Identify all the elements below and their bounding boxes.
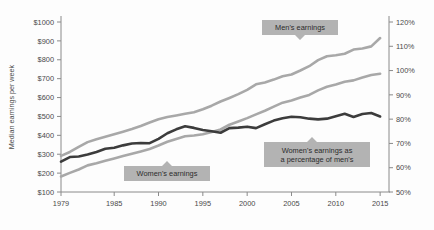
x-axis-tick-label: 1979 [53,199,69,208]
y-axis-title: Median earnings per week [7,64,16,149]
x-axis-tick-label: 1985 [106,199,122,208]
x-axis-tick-label: 2015 [372,199,388,208]
right-axis-tick-label: 120% [396,18,415,27]
right-axis-tick-label: 90% [396,91,411,100]
right-axis-tick-label: 100% [396,66,415,75]
x-axis-tick-label: 2010 [328,199,344,208]
x-axis-tick-label: 1995 [195,199,211,208]
left-axis-tick-label: $600 [38,93,54,102]
right-axis-tick-label: 50% [396,188,411,197]
left-axis-tick-label: $100 [38,188,54,197]
right-axis-tick-label: 70% [396,139,411,148]
annotation-womens-percentage: Women's earnings asa percentage of men's [264,137,370,167]
callout-label: a percentage of men's [281,155,354,164]
right-axis-tick-label: 60% [396,163,411,172]
right-axis-tick-label: 110% [396,42,415,51]
x-axis-tick-label: 2000 [239,199,255,208]
annotation-womens-earnings: Women's earnings [124,161,210,181]
left-axis-tick-label: $500 [38,112,54,121]
callout-label: Women's earnings as [282,146,353,155]
left-axis-tick-label: $800 [38,55,54,64]
left-axis-tick-label: $700 [38,74,54,83]
left-axis-tick-label: $400 [38,131,54,140]
left-axis-tick-label: $200 [38,169,54,178]
earnings-chart: $100$200$300$400$500$600$700$800$900$100… [0,0,434,230]
callout-label: Men's earnings [275,23,325,32]
x-axis-tick-label: 2005 [283,199,299,208]
annotation-mens-earnings: Men's earnings [262,20,338,40]
series-line-men-s-earnings [61,38,380,156]
right-axis-tick-label: 80% [396,115,411,124]
callout-label: Women's earnings [137,169,198,178]
left-axis-tick-label: $300 [38,150,54,159]
x-axis-tick-label: 1990 [150,199,166,208]
left-axis-tick-label: $1000 [33,18,54,27]
left-axis-tick-label: $900 [38,37,54,46]
chart-container: $100$200$300$400$500$600$700$800$900$100… [0,0,434,230]
